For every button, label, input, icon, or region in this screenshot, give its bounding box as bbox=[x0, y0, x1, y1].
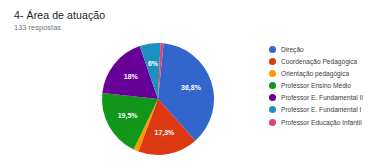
legend-item-label: Professor Ensino Médio bbox=[281, 81, 351, 90]
chart-card: 4- Área de atuação 133 respostas 36,8%17… bbox=[0, 0, 387, 163]
legend-item[interactable]: Direção bbox=[269, 45, 363, 54]
legend-swatch-icon bbox=[269, 94, 276, 101]
legend-item[interactable]: Coordenação Pedagógica bbox=[269, 57, 363, 66]
pie-slice-value-label: 18% bbox=[124, 73, 139, 80]
legend-item-label: Professor E. Fundamental II bbox=[281, 93, 363, 102]
legend-swatch-icon bbox=[269, 82, 276, 89]
legend-swatch-icon bbox=[269, 70, 276, 77]
response-count: 133 respostas bbox=[14, 23, 61, 32]
legend-item-label: Coordenação Pedagógica bbox=[281, 57, 357, 66]
pie-chart: 36,8%17,3%19,5%18%6% bbox=[96, 40, 228, 158]
legend-item[interactable]: Professor E. Fundamental II bbox=[269, 93, 363, 102]
pie-slice-value-label: 19,5% bbox=[118, 112, 139, 120]
page-title: 4- Área de atuação bbox=[14, 9, 105, 21]
pie-slice-value-label: 17,3% bbox=[154, 129, 175, 137]
pie-chart-svg: 36,8%17,3%19,5%18%6% bbox=[96, 40, 228, 158]
legend-swatch-icon bbox=[269, 119, 276, 126]
legend-swatch-icon bbox=[269, 58, 276, 65]
legend-item-label: Professor E. Fundamental I bbox=[281, 105, 361, 114]
pie-slice-value-label: 6% bbox=[148, 60, 159, 67]
legend-swatch-icon bbox=[269, 46, 276, 53]
legend-item[interactable]: Professor Ensino Médio bbox=[269, 81, 363, 90]
legend-item[interactable]: Orientação pedagógica bbox=[269, 69, 363, 78]
legend-item-label: Direção bbox=[281, 45, 304, 54]
legend-item[interactable]: Professor E. Fundamental I bbox=[269, 105, 363, 114]
legend-item-label: Professor Educação Infantil bbox=[281, 118, 362, 127]
legend-item-label: Orientação pedagógica bbox=[281, 69, 349, 78]
legend-item[interactable]: Professor Educação Infantil bbox=[269, 118, 363, 127]
legend-swatch-icon bbox=[269, 106, 276, 113]
chart-legend: DireçãoCoordenação PedagógicaOrientação … bbox=[269, 45, 363, 127]
pie-slice-value-label: 36,8% bbox=[181, 84, 202, 92]
